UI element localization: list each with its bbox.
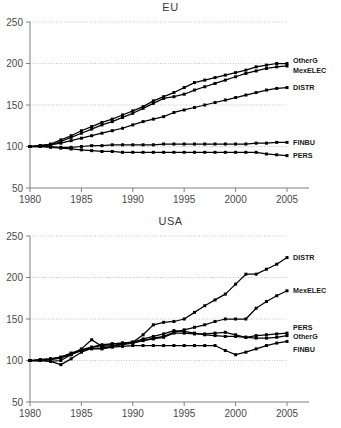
series-label-pers: PERS xyxy=(293,151,313,160)
y-tick-label: 200 xyxy=(6,272,23,283)
chart-panel-usa: USA 501001502002501980198519901995200020… xyxy=(0,214,341,428)
y-tick-label: 150 xyxy=(6,314,23,325)
y-tick-label: 150 xyxy=(6,100,23,111)
plot-area-eu: 50100150200250198019851990199520002005Ot… xyxy=(0,0,341,214)
x-tick-label: 1980 xyxy=(19,194,42,205)
series-finbu xyxy=(29,340,289,362)
y-tick-label: 200 xyxy=(6,58,23,69)
series-label-mexelec: MexELEC xyxy=(293,66,326,75)
series-label-mexelec: MexELEC xyxy=(293,286,326,295)
series-mexelec xyxy=(29,64,289,148)
y-tick-label: 100 xyxy=(6,355,23,366)
series-label-pers: PERS xyxy=(293,323,313,332)
series-label-otherg: OtherG xyxy=(293,56,318,65)
x-tick-label: 2000 xyxy=(224,408,247,419)
x-tick-label: 1990 xyxy=(122,408,145,419)
x-tick-label: 1995 xyxy=(173,194,196,205)
x-tick-label: 1990 xyxy=(122,194,145,205)
series-label-otherg: OtherG xyxy=(293,332,318,341)
series-otherg xyxy=(29,62,289,148)
y-tick-label: 250 xyxy=(6,17,23,28)
chart-svg-usa: 50100150200250198019851990199520002005DI… xyxy=(0,214,341,428)
plot-area-usa: 50100150200250198019851990199520002005DI… xyxy=(0,214,341,428)
x-tick-label: 2005 xyxy=(276,194,299,205)
y-tick-label: 50 xyxy=(12,397,24,408)
x-tick-label: 2000 xyxy=(224,194,247,205)
y-tick-label: 50 xyxy=(12,183,24,194)
series-label-distr: DISTR xyxy=(293,253,315,262)
x-tick-label: 1995 xyxy=(173,408,196,419)
series-label-finbu: FINBU xyxy=(293,345,315,354)
x-tick-label: 1985 xyxy=(70,408,93,419)
chart-panel-eu: EU 5010015020025019801985199019952000200… xyxy=(0,0,341,214)
x-tick-label: 2005 xyxy=(276,408,299,419)
x-tick-label: 1980 xyxy=(19,408,42,419)
y-tick-label: 100 xyxy=(6,141,23,152)
series-label-distr: DISTR xyxy=(293,83,315,92)
series-label-finbu: FINBU xyxy=(293,138,315,147)
chart-svg-eu: 50100150200250198019851990199520002005Ot… xyxy=(0,0,341,214)
y-tick-label: 250 xyxy=(6,231,23,242)
x-tick-label: 1985 xyxy=(70,194,93,205)
